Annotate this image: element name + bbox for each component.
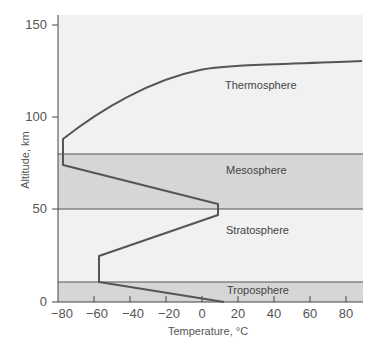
x-tick-label: 80 [339,306,353,321]
x-tick-label: 0 [198,306,205,321]
mesosphere-band [58,154,363,209]
mesosphere-label: Mesosphere [226,164,287,176]
x-tick-label: −80 [51,306,73,321]
x-tick-label: −40 [122,306,144,321]
y-tick-label: 0 [40,294,47,309]
x-tick-label: 60 [303,306,317,321]
atmosphere-chart: 0 50 100 150 −80 −60 −40 −20 0 20 40 60 … [0,0,383,347]
troposphere-label: Troposphere [227,284,289,296]
y-tick-label: 150 [25,17,47,32]
x-tick-label: −20 [158,306,180,321]
x-tick-label: −60 [86,306,108,321]
y-tick-label: 50 [33,201,47,216]
y-axis-title: Altitude, km [19,131,31,188]
x-axis-title: Temperature, °C [168,325,248,337]
stratosphere-label: Stratosphere [226,224,289,236]
y-tick-label: 100 [25,109,47,124]
y-ticks [52,25,58,302]
x-tick-label: 20 [231,306,245,321]
thermosphere-label: Thermosphere [225,79,297,91]
x-tick-label: 40 [267,306,281,321]
